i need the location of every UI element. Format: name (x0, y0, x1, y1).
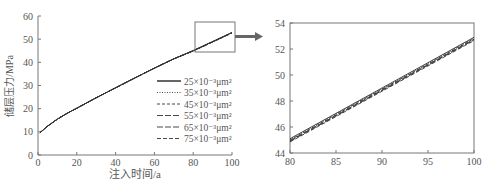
y-tick-label: 50 (275, 70, 285, 81)
x-tick-label: 100 (467, 156, 482, 167)
legend-label: 65×10⁻³μm² (184, 123, 232, 133)
y-tick-label: 50 (23, 34, 33, 45)
y-tick-label: 0 (28, 150, 33, 161)
series-line (290, 39, 474, 140)
legend-label: 25×10⁻³μm² (184, 77, 232, 87)
inset-chart: 80859095100444648505254 (275, 18, 482, 168)
y-tick-label: 20 (23, 103, 33, 114)
series-line (290, 37, 474, 138)
series-line (290, 41, 474, 142)
y-tick-label: 52 (275, 44, 285, 55)
y-tick-label: 46 (275, 122, 285, 133)
y-tick-label: 48 (275, 96, 285, 107)
x-tick-label: 80 (285, 156, 295, 167)
y-axis-label: 储层压力/MPa (3, 55, 15, 117)
legend-label: 35×10⁻³μm² (184, 88, 232, 98)
series-line (290, 40, 474, 141)
x-tick-label: 0 (36, 157, 41, 168)
x-tick-label: 100 (225, 157, 240, 168)
y-tick-label: 10 (23, 126, 33, 137)
y-tick-label: 44 (275, 148, 285, 159)
x-tick-label: 95 (423, 156, 433, 167)
legend-label: 55×10⁻³μm² (184, 111, 232, 121)
x-tick-label: 60 (149, 157, 159, 168)
inset-chart-lines (290, 37, 474, 142)
series-line (290, 39, 474, 140)
x-tick-label: 80 (188, 157, 198, 168)
y-tick-label: 40 (23, 57, 33, 68)
legend-label: 45×10⁻³μm² (184, 100, 232, 110)
y-tick-label: 30 (23, 80, 33, 91)
figure: 0204060801000102030405060 注入时间/a 储层压力/MP… (0, 0, 488, 187)
main-chart: 0204060801000102030405060 注入时间/a 储层压力/MP… (3, 11, 263, 181)
x-tick-label: 20 (72, 157, 82, 168)
x-tick-label: 90 (377, 156, 387, 167)
legend: 25×10⁻³μm²35×10⁻³μm²45×10⁻³μm²55×10⁻³μm²… (157, 77, 232, 145)
x-tick-label: 85 (331, 156, 341, 167)
x-axis-label: 注入时间/a (109, 167, 161, 180)
series-line (290, 38, 474, 139)
x-tick-label: 40 (111, 157, 121, 168)
arrow-icon (235, 32, 263, 41)
legend-label: 75×10⁻³μm² (184, 134, 232, 144)
y-tick-label: 54 (275, 18, 285, 29)
y-tick-label: 60 (23, 11, 33, 22)
